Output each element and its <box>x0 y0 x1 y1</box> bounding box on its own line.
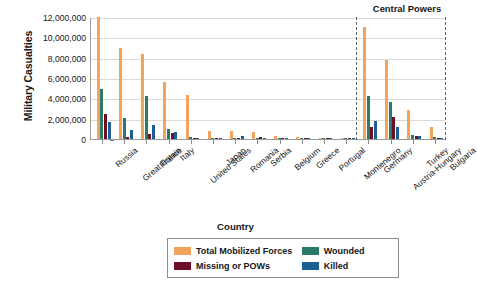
x-axis-tick-mark <box>324 140 325 144</box>
x-axis-title: Country <box>0 221 471 232</box>
bar <box>208 131 211 139</box>
bar-group <box>296 17 312 139</box>
y-axis-tick-label: 6,000,000 <box>24 75 86 84</box>
x-axis-tick-label: Portugal <box>337 146 367 173</box>
bar <box>241 136 244 139</box>
bar <box>259 137 262 139</box>
bar <box>389 102 392 139</box>
bar-group <box>430 17 446 139</box>
x-axis-tick-mark <box>102 140 103 144</box>
bar <box>186 95 189 139</box>
bar-group <box>319 17 335 139</box>
bar <box>196 138 199 139</box>
bar-group <box>186 17 202 139</box>
bar <box>163 82 166 139</box>
bar <box>233 138 236 139</box>
bar <box>274 136 277 139</box>
bar <box>296 137 299 139</box>
x-axis-tick-label: Russia <box>114 146 139 169</box>
bar-group <box>407 17 423 139</box>
bar-group <box>119 17 135 139</box>
bar <box>370 127 373 139</box>
bar <box>152 125 155 139</box>
x-axis-tick-mark <box>391 140 392 144</box>
bar <box>193 138 196 139</box>
bar <box>348 138 351 139</box>
bar-group <box>141 17 157 139</box>
bar <box>407 110 410 139</box>
y-axis-tick-label: 0 <box>24 136 86 145</box>
bar <box>100 89 103 139</box>
bar <box>130 130 133 139</box>
plot-area <box>90 18 445 140</box>
bar <box>171 133 174 139</box>
bar <box>326 138 329 139</box>
x-axis-tick-mark <box>124 140 125 144</box>
bar <box>352 138 355 139</box>
bar <box>322 138 325 139</box>
legend-swatch-icon <box>302 262 319 270</box>
x-axis-tick-mark <box>302 140 303 144</box>
bar <box>307 138 310 139</box>
legend: Total Mobilized Forces Wounded Missing o… <box>167 238 399 278</box>
x-axis-tick-mark <box>257 140 258 144</box>
bar-group <box>230 17 246 139</box>
bar <box>123 118 126 139</box>
bar <box>252 132 255 139</box>
bar-group <box>252 17 268 139</box>
bar-group <box>208 17 224 139</box>
bar <box>256 138 259 139</box>
y-axis-tick-label: 8,000,000 <box>24 54 86 63</box>
bar <box>319 138 322 139</box>
bar-group <box>97 17 113 139</box>
legend-label: Wounded <box>324 246 365 256</box>
y-axis-tick-label: 12,000,000 <box>24 14 86 23</box>
x-axis-tick-mark <box>235 140 236 144</box>
bar <box>437 138 440 139</box>
x-axis-tick-labels: RussiaGreat BritainFranceItalyUnited Sta… <box>90 146 470 206</box>
bar <box>415 136 418 139</box>
bar <box>440 138 443 139</box>
bar <box>341 138 344 139</box>
bar-group <box>385 17 401 139</box>
y-axis-tick-label: 2,000,000 <box>24 115 86 124</box>
bar <box>211 138 214 139</box>
legend-swatch-icon <box>174 247 191 255</box>
x-axis-tick-mark <box>169 140 170 144</box>
bar <box>367 96 370 139</box>
bar <box>285 138 288 139</box>
bar <box>97 17 100 139</box>
bar <box>278 138 281 139</box>
bar <box>119 48 122 139</box>
legend-swatch-icon <box>302 247 319 255</box>
x-axis-tick-mark <box>146 140 147 144</box>
bar <box>374 121 377 139</box>
bar <box>418 136 421 139</box>
x-axis-tick-mark <box>191 140 192 144</box>
legend-item-missing-or-pows: Missing or POWs <box>174 258 302 273</box>
bar <box>329 138 332 139</box>
y-axis-tick-label: 4,000,000 <box>24 95 86 104</box>
legend-label: Total Mobilized Forces <box>196 246 292 256</box>
bar <box>281 138 284 139</box>
legend-item-total-mobilized-forces: Total Mobilized Forces <box>174 243 302 258</box>
x-axis-tick-mark <box>346 140 347 144</box>
bar <box>174 132 177 139</box>
central-powers-divider-line <box>356 17 357 140</box>
x-axis-tick-mark <box>413 140 414 144</box>
y-axis-tick-mark <box>110 140 114 141</box>
bar-group <box>274 17 290 139</box>
bar-group <box>163 17 179 139</box>
bar <box>167 129 170 139</box>
bar <box>396 127 399 139</box>
bar <box>215 138 218 139</box>
legend-item-killed: Killed <box>302 258 392 273</box>
bar-group <box>363 17 379 139</box>
bar <box>385 60 388 139</box>
bar <box>126 137 129 139</box>
x-axis-tick-mark <box>435 140 436 144</box>
legend-item-wounded: Wounded <box>302 243 392 258</box>
bar-group <box>341 17 357 139</box>
legend-row: Total Mobilized Forces Wounded <box>174 243 392 258</box>
bar <box>145 96 148 139</box>
